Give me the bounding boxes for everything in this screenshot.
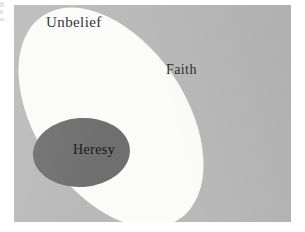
set-ellipse-faith (14, 5, 242, 222)
set-label-heresy: Heresy (73, 143, 115, 157)
scan-artifact-mark (0, 18, 4, 21)
diagram-canvas: Unbelief Faith Heresy (0, 0, 305, 232)
universe-set-unbelief: Unbelief Faith Heresy (14, 5, 291, 222)
scan-artifact-mark (0, 10, 3, 14)
scan-artifact-mark (0, 2, 4, 7)
set-label-faith: Faith (166, 63, 197, 77)
set-label-unbelief: Unbelief (46, 15, 102, 30)
